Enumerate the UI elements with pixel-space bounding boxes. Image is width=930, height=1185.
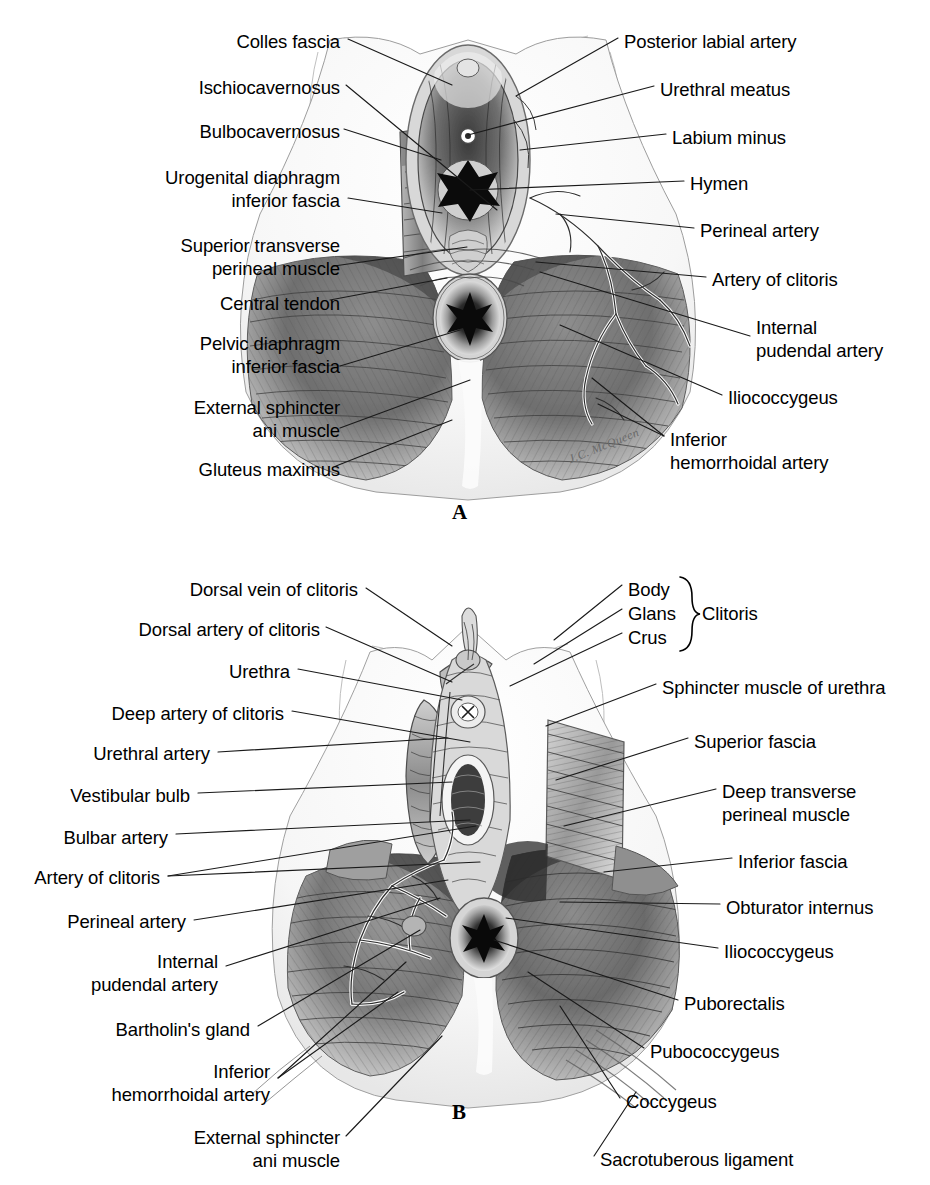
label-sphincter-muscle-of-urethra: Sphincter muscle of urethra <box>662 676 886 699</box>
label-perineal-artery: Perineal artery <box>67 910 186 933</box>
label-dorsal-artery-of-clitoris: Dorsal artery of clitoris <box>138 618 320 641</box>
label-glans: Glans <box>628 602 676 625</box>
label-superior-transverse-perineal-muscle: Superior transverse perineal muscle <box>180 234 340 280</box>
label-artery-of-clitoris: Artery of clitoris <box>34 866 160 889</box>
label-crus: Crus <box>628 626 667 649</box>
label-internal-pudendal-artery: Internal pudendal artery <box>91 950 218 996</box>
label-dorsal-vein-of-clitoris: Dorsal vein of clitoris <box>190 578 358 601</box>
anatomy-plate: Colles fasciaIschiocavernosusBulbocavern… <box>0 0 930 1185</box>
label-deep-artery-of-clitoris: Deep artery of clitoris <box>112 702 284 725</box>
panel-letter-a: A <box>452 500 467 525</box>
label-urethral-meatus: Urethral meatus <box>660 78 790 101</box>
label-pelvic-diaphragm-inferior-fascia: Pelvic diaphragm inferior fascia <box>200 332 340 378</box>
label-urethra: Urethra <box>229 660 290 683</box>
label-artery-of-clitoris: Artery of clitoris <box>712 268 838 291</box>
label-pubococcygeus: Pubococcygeus <box>650 1040 779 1063</box>
label-urethral-artery: Urethral artery <box>93 742 210 765</box>
label-inferior-hemorrhoidal-artery: Inferior hemorrhoidal artery <box>111 1060 270 1106</box>
label-iliococcygeus: Iliococcygeus <box>724 940 834 963</box>
clitoris-brace <box>676 575 702 653</box>
label-sacrotuberous-ligament: Sacrotuberous ligament <box>600 1148 793 1171</box>
label-ischiocavernosus: Ischiocavernosus <box>199 76 340 99</box>
label-internal-pudendal-artery: Internal pudendal artery <box>756 316 883 362</box>
label-puborectalis: Puborectalis <box>684 992 785 1015</box>
label-bulbocavernosus: Bulbocavernosus <box>200 120 340 143</box>
label-coccygeus: Coccygeus <box>626 1090 717 1113</box>
label-gluteus-maximus: Gluteus maximus <box>199 458 340 481</box>
panel-letter-b: B <box>452 1100 466 1125</box>
panel-b: Dorsal vein of clitorisDorsal artery of … <box>0 555 930 1185</box>
panel-a: Colles fasciaIschiocavernosusBulbocavern… <box>0 0 930 555</box>
label-urogenital-diaphragm-inferior-fascia: Urogenital diaphragm inferior fascia <box>165 166 340 212</box>
label-external-sphincter-ani-muscle: External sphincter ani muscle <box>194 1126 340 1172</box>
label-external-sphincter-ani-muscle: External sphincter ani muscle <box>194 396 340 442</box>
label-colles-fascia: Colles fascia <box>236 30 340 53</box>
label-obturator-internus: Obturator internus <box>726 896 873 919</box>
label-iliococcygeus: Iliococcygeus <box>728 386 838 409</box>
label-deep-transverse-perineal-muscle: Deep transverse perineal muscle <box>722 780 856 826</box>
label-posterior-labial-artery: Posterior labial artery <box>624 30 797 53</box>
label-labium-minus: Labium minus <box>672 126 786 149</box>
label-bartholin-s-gland: Bartholin's gland <box>115 1018 250 1041</box>
label-vestibular-bulb: Vestibular bulb <box>70 784 190 807</box>
label-body: Body <box>628 578 670 601</box>
label-perineal-artery: Perineal artery <box>700 219 819 242</box>
label-central-tendon: Central tendon <box>220 292 340 315</box>
label-inferior-fascia: Inferior fascia <box>738 850 848 873</box>
label-superior-fascia: Superior fascia <box>694 730 816 753</box>
label-hymen: Hymen <box>690 172 748 195</box>
label-inferior-hemorrhoidal-artery: Inferior hemorrhoidal artery <box>670 428 829 474</box>
label-bulbar-artery: Bulbar artery <box>63 826 168 849</box>
label-clitoris: Clitoris <box>702 602 758 625</box>
